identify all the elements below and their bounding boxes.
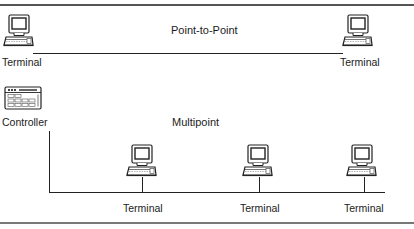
terminal-icon bbox=[2, 14, 34, 48]
top-border-rule bbox=[0, 4, 414, 6]
terminal-2-drop-line bbox=[259, 177, 260, 192]
terminal-icon bbox=[345, 144, 377, 178]
multipoint-bus-line bbox=[49, 192, 385, 193]
controller-label: Controller bbox=[2, 116, 48, 128]
multipoint-title: Multipoint bbox=[172, 116, 219, 128]
mp-terminal-2-label: Terminal bbox=[240, 202, 280, 214]
bottom-border-rule bbox=[0, 222, 414, 224]
mp-terminal-3-label: Terminal bbox=[344, 202, 384, 214]
terminal-icon bbox=[125, 144, 157, 178]
point-to-point-link bbox=[33, 53, 343, 54]
controller-drop-line bbox=[49, 131, 50, 192]
ptp-terminal-right-label: Terminal bbox=[340, 56, 380, 68]
terminal-icon bbox=[341, 14, 373, 48]
terminal-1-drop-line bbox=[142, 177, 143, 192]
terminal-icon bbox=[241, 144, 273, 178]
controller-icon bbox=[4, 86, 42, 110]
terminal-3-drop-line bbox=[364, 177, 365, 192]
mp-terminal-1-label: Terminal bbox=[123, 202, 163, 214]
ptp-terminal-left-label: Terminal bbox=[2, 56, 42, 68]
point-to-point-title: Point-to-Point bbox=[171, 24, 238, 36]
